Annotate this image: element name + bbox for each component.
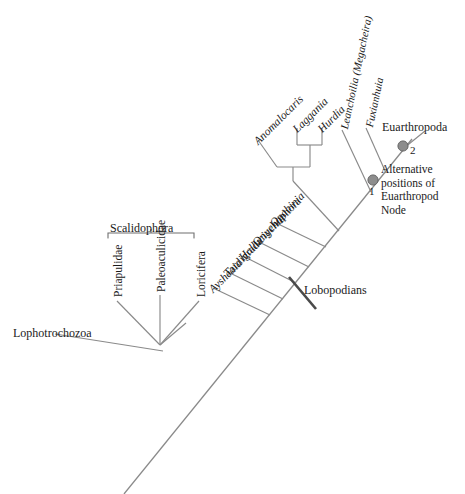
label-paleoaculicidae: Paleoaculicidae <box>156 220 168 292</box>
label-loricifera: Loricifera <box>196 251 208 297</box>
cladogram-figure: Lophotrochozoa Scalidophora Priapulidae … <box>0 0 465 494</box>
label-lobopodians: Lobopodians <box>304 284 367 296</box>
tip-tardigrada <box>228 272 283 299</box>
label-node-2-number: 2 <box>410 145 416 156</box>
tip-priapulidae <box>117 301 160 345</box>
euarthropod-node-2-marker[interactable] <box>398 141 408 151</box>
tip-aysheaia <box>213 288 270 315</box>
tree-canvas <box>0 0 465 494</box>
label-euarthropoda: Euarthropoda <box>382 121 447 133</box>
tip-leanchoilia <box>342 130 371 192</box>
label-node-1-number: 1 <box>369 186 375 197</box>
euarthropod-node-1-marker[interactable] <box>368 175 378 185</box>
branch-scalidophora-stem <box>160 323 186 345</box>
tip-onychophora <box>257 241 309 267</box>
label-alternative-node-caption: Alternative positions of Euarthropod Nod… <box>381 163 461 217</box>
tip-loricifera <box>160 301 199 345</box>
label-lophotrochozoa: Lophotrochozoa <box>13 327 92 339</box>
tip-hallucigenia <box>243 256 296 283</box>
label-priapulidae: Priapulidae <box>113 245 125 297</box>
